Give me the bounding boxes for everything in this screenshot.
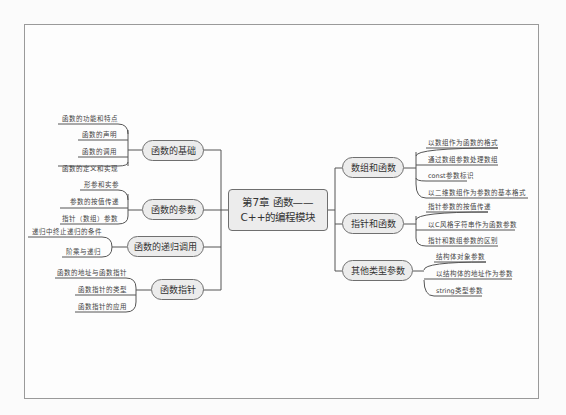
center-title-line2: C++的编程模块: [241, 210, 316, 225]
branch-label: 函数指针: [160, 283, 196, 296]
leaf-string-type-param[interactable]: string类型参数: [436, 287, 483, 296]
leaf-struct-address-param[interactable]: 以结构体的地址作为参数: [436, 270, 513, 279]
leaf-array-as-function-format[interactable]: 以数组作为函数的格式: [428, 139, 498, 148]
leaf-recursion-termination[interactable]: 递归中终止递归的条件: [32, 228, 102, 237]
leaf-function-address-pointer[interactable]: 函数的地址与函数指针: [57, 269, 127, 278]
center-title-line1: 第7章 函数——: [242, 195, 313, 210]
leaf-const-param[interactable]: const参数标识: [428, 172, 474, 181]
branch-function-pointer[interactable]: 函数指针: [151, 279, 204, 300]
branch-other-param-types[interactable]: 其他类型参数: [342, 260, 413, 281]
leaf-process-array-by-params[interactable]: 通过数组参数处理数组: [428, 156, 498, 165]
branch-function-params[interactable]: 函数的参数: [142, 199, 204, 220]
leaf-pointer-vs-array-params[interactable]: 指针和数组参数的区别: [428, 237, 498, 246]
leaf-2d-array-param-format[interactable]: 以二维数组作为参数的基本格式: [428, 189, 526, 198]
center-node[interactable]: 第7章 函数—— C++的编程模块: [228, 189, 328, 231]
leaf-function-declaration[interactable]: 函数的声明: [82, 131, 117, 140]
branch-label: 指针和函数: [351, 217, 396, 230]
branch-label: 其他类型参数: [351, 264, 405, 277]
branch-label: 函数的参数: [151, 203, 196, 216]
leaf-function-call[interactable]: 函数的调用: [82, 148, 117, 157]
branch-function-basics[interactable]: 函数的基础: [142, 140, 204, 161]
branch-pointers-functions[interactable]: 指针和函数: [342, 213, 404, 234]
leaf-pointer-array-params[interactable]: 指针（数组）参数: [62, 215, 118, 224]
branch-label: 数组和函数: [351, 161, 396, 174]
branch-label: 函数的基础: [151, 144, 196, 157]
leaf-factorial-recursion[interactable]: 阶乘与递归: [66, 248, 101, 257]
branch-arrays-functions[interactable]: 数组和函数: [342, 157, 404, 178]
leaf-pointer-pass-by-value[interactable]: 指针参数的按值传递: [428, 203, 491, 212]
branch-label: 函数的递归调用: [134, 240, 197, 253]
leaf-struct-object-param[interactable]: 结构体对象参数: [436, 253, 485, 262]
leaf-c-string-param[interactable]: 以C风格字符串作为函数参数: [428, 221, 517, 230]
leaf-function-features[interactable]: 函数的功能和特点: [62, 115, 118, 124]
leaf-formal-actual-params[interactable]: 形参和实参: [84, 181, 119, 190]
leaf-function-pointer-type[interactable]: 函数指针的类型: [78, 286, 127, 295]
branch-recursion[interactable]: 函数的递归调用: [127, 236, 204, 257]
leaf-function-pointer-usage[interactable]: 函数指针的应用: [78, 303, 127, 312]
leaf-function-definition[interactable]: 函数的定义和实现: [62, 165, 118, 174]
leaf-pass-by-value[interactable]: 参数的按值传递: [70, 198, 119, 207]
